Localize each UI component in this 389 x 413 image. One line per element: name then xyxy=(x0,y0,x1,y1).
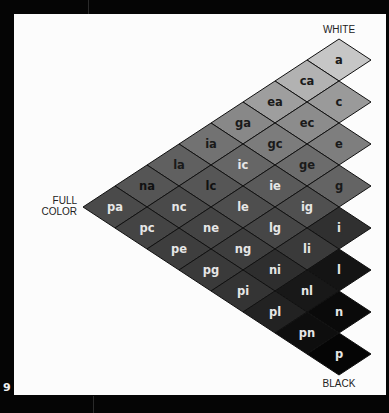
diamond-label: ca xyxy=(300,74,315,88)
diamond-label: pn xyxy=(299,326,315,340)
diamond-label: nc xyxy=(171,200,186,214)
diamond-label: ig xyxy=(301,200,313,214)
diamond-label: li xyxy=(303,242,311,256)
diamond-label: nl xyxy=(301,284,313,298)
diamond-label: la xyxy=(173,158,185,172)
diamond-label: n xyxy=(335,305,343,319)
diamond-label: p xyxy=(335,347,343,361)
diamond-label: c xyxy=(336,95,343,109)
diamond-label: pl xyxy=(269,305,281,319)
diamond-label: lg xyxy=(269,221,281,235)
diamond-label: ni xyxy=(269,263,281,277)
diamond-label: ga xyxy=(235,116,251,130)
diamond-label: gc xyxy=(267,137,282,151)
diamond-label: pi xyxy=(237,284,249,298)
diamond-label: ec xyxy=(300,116,315,130)
diamond-label: i xyxy=(337,221,341,235)
diamond-label: pa xyxy=(107,200,123,214)
color-tone-triangle-diagram: acaeagaialanapacecgciclcncpcegeielenepeg… xyxy=(0,0,389,413)
diamond-label: na xyxy=(139,179,155,193)
diamond-label: ng xyxy=(235,242,251,256)
diamond-label: lc xyxy=(206,179,217,193)
diamond-label: ie xyxy=(269,179,281,193)
diamond-label: pc xyxy=(139,221,154,235)
white-label: WHITE xyxy=(323,24,356,35)
black-label: BLACK xyxy=(323,378,356,389)
diamond-label: a xyxy=(335,53,343,67)
diamond-label: ic xyxy=(238,158,249,172)
diamond-label: e xyxy=(335,137,343,151)
diamond-label: ne xyxy=(203,221,219,235)
diamond-label: g xyxy=(335,179,343,193)
diamond-label: pe xyxy=(171,242,187,256)
diamond-label: ea xyxy=(267,95,283,109)
diamond-label: ge xyxy=(299,158,315,172)
diamond-grid: acaeagaialanapacecgciclcncpcegeielenepeg… xyxy=(83,39,371,375)
full-color-label-line1: FULL xyxy=(53,195,78,206)
diamond-label: pg xyxy=(203,263,219,277)
diamond-label: l xyxy=(337,263,341,277)
full-color-label-line2: COLOR xyxy=(41,206,77,217)
diamond-label: le xyxy=(237,200,249,214)
diamond-label: ia xyxy=(205,137,217,151)
